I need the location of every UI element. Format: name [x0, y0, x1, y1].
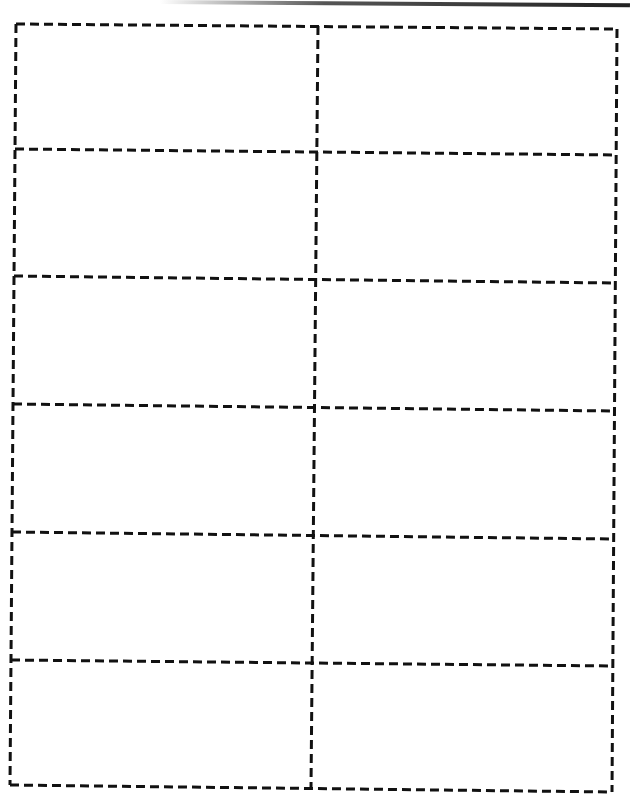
border-right [612, 29, 617, 792]
label-sheet [0, 0, 630, 797]
